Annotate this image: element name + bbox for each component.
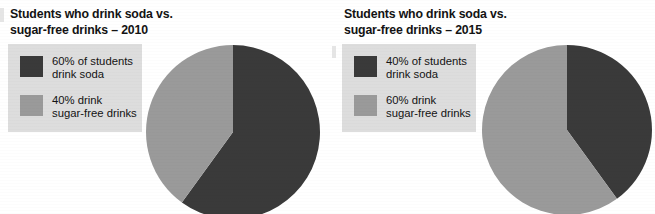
legend-swatch-soda-icon	[354, 56, 377, 77]
chart-panel-2010: Students who drink soda vs. sugar-free d…	[0, 0, 327, 214]
legend-swatch-sugar-free-icon	[20, 95, 43, 116]
legend-2010: 60% of students drink soda 40% drink sug…	[8, 44, 142, 132]
pie-chart-2015	[481, 44, 653, 214]
chart-panel-2015: Students who drink soda vs. sugar-free d…	[334, 0, 655, 214]
legend-item-sugar-free: 40% drink sugar-free drinks	[20, 94, 137, 121]
legend-item-soda: 60% of students drink soda	[20, 55, 133, 82]
chart-title-line-2: sugar-free drinks – 2015	[344, 23, 644, 39]
chart-title-line-2: sugar-free drinks – 2010	[10, 23, 310, 39]
pie-svg-2010	[145, 44, 321, 214]
chart-title-2015: Students who drink soda vs. sugar-free d…	[344, 7, 644, 38]
legend-label-sugar-free-line-1: 40% drink	[52, 94, 137, 107]
pie-chart-2010	[145, 44, 321, 214]
legend-label-soda-line-2: drink soda	[52, 68, 133, 81]
chart-title-line-1: Students who drink soda vs.	[344, 7, 644, 23]
legend-label-sugar-free-line-2: sugar-free drinks	[386, 107, 471, 120]
legend-label-sugar-free-line-1: 60% drink	[386, 94, 471, 107]
chart-title-2010: Students who drink soda vs. sugar-free d…	[10, 7, 310, 38]
legend-label-sugar-free-line-2: sugar-free drinks	[52, 107, 137, 120]
legend-label-soda-line-1: 40% of students	[386, 55, 467, 68]
legend-label-soda: 40% of students drink soda	[386, 55, 467, 82]
legend-item-sugar-free: 60% drink sugar-free drinks	[354, 94, 471, 121]
pie-svg-2015	[481, 44, 653, 214]
legend-swatch-soda-icon	[20, 56, 43, 77]
legend-2015: 40% of students drink soda 60% drink sug…	[342, 44, 476, 132]
legend-label-soda: 60% of students drink soda	[52, 55, 133, 82]
pie-chart-figure: { "figure": { "background_color": "#ffff…	[0, 0, 655, 214]
legend-label-soda-line-1: 60% of students	[52, 55, 133, 68]
legend-item-soda: 40% of students drink soda	[354, 55, 467, 82]
legend-label-soda-line-2: drink soda	[386, 68, 467, 81]
legend-label-sugar-free: 40% drink sugar-free drinks	[52, 94, 137, 121]
legend-swatch-sugar-free-icon	[354, 95, 377, 116]
legend-label-sugar-free: 60% drink sugar-free drinks	[386, 94, 471, 121]
chart-title-line-1: Students who drink soda vs.	[10, 7, 310, 23]
